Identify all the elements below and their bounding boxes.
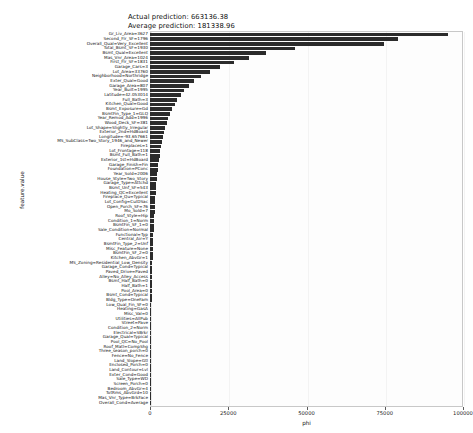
feature-bar [150, 168, 158, 172]
feature-bar [150, 149, 160, 153]
x-tick-label: 25000 [220, 410, 237, 416]
feature-bar [150, 317, 151, 321]
feature-bar [150, 322, 151, 326]
feature-bar [150, 200, 155, 204]
feature-bar [150, 65, 220, 69]
feature-bar [150, 359, 151, 363]
feature-bar [150, 33, 448, 37]
feature-bar [150, 266, 152, 270]
feature-bar [150, 177, 157, 181]
feature-bar [150, 93, 181, 97]
feature-bar [150, 112, 170, 116]
prediction-annotations: Actual prediction: 663136.38 Average pre… [128, 13, 235, 30]
feature-bar [150, 196, 155, 200]
feature-bar [150, 172, 157, 176]
average-prediction-text: Average prediction: 181338.96 [128, 22, 235, 31]
feature-bar [150, 387, 151, 391]
feature-label: Overall_Cond=Average [99, 400, 148, 405]
feature-bar [150, 131, 164, 135]
feature-bar [150, 396, 151, 400]
feature-bar [150, 214, 154, 218]
feature-bar [150, 163, 158, 167]
feature-bar [150, 233, 153, 237]
feature-bar [150, 312, 151, 316]
feature-bar [150, 382, 151, 386]
feature-bar [150, 126, 165, 130]
feature-bar [150, 103, 175, 107]
feature-bar [150, 140, 162, 144]
x-tick-label: 0 [148, 410, 151, 416]
feature-bar [150, 350, 151, 354]
feature-bar [150, 247, 153, 251]
feature-bar [150, 47, 295, 51]
feature-bar [150, 205, 155, 209]
feature-bar [150, 154, 160, 158]
feature-bar [150, 256, 153, 260]
feature-bar [150, 79, 194, 83]
feature-bar [150, 56, 249, 60]
feature-bar [150, 224, 154, 228]
feature-bar [150, 298, 152, 302]
feature-bar [150, 303, 151, 307]
feature-bar [150, 51, 266, 55]
x-tick-label: 75000 [376, 410, 393, 416]
feature-bar [150, 42, 384, 46]
feature-bar [150, 182, 156, 186]
feature-bar [150, 340, 151, 344]
y-axis-label: feature.value [19, 171, 25, 208]
feature-bar [150, 280, 152, 284]
feature-bar [150, 70, 210, 74]
feature-bar [150, 121, 167, 125]
feature-bar [150, 392, 151, 396]
feature-bar [150, 401, 151, 405]
feature-bar [150, 210, 155, 214]
actual-prediction-text: Actual prediction: 663136.38 [128, 13, 235, 22]
feature-bar [150, 354, 151, 358]
feature-bar [150, 336, 151, 340]
feature-bar [150, 191, 156, 195]
x-axis-label: phi [150, 420, 463, 426]
feature-bar [150, 284, 152, 288]
feature-bar [150, 98, 177, 102]
feature-bar [150, 186, 156, 190]
feature-bar [150, 135, 163, 139]
feature-bar [150, 242, 153, 246]
feature-bar [150, 331, 151, 335]
feature-bar [150, 261, 152, 265]
feature-bar [150, 368, 151, 372]
feature-bar [150, 275, 152, 279]
feature-bar [150, 378, 151, 382]
feature-bar [150, 117, 168, 121]
feature-bar [150, 61, 234, 65]
feature-bar [150, 326, 151, 330]
feature-bar [150, 158, 159, 162]
bar-row: Overall_Cond=Average [0, 401, 473, 406]
feature-bar [150, 364, 151, 368]
feature-bar [150, 345, 151, 349]
feature-bar [150, 145, 161, 149]
feature-bar [150, 289, 152, 293]
shap-breakdown-chart: Actual prediction: 663136.38 Average pre… [0, 0, 473, 433]
feature-bar [150, 270, 152, 274]
bar-rows: Gr_Liv_Area=3627Second_Flr_SF=1796Overal… [0, 31, 473, 407]
feature-bar [150, 252, 153, 256]
feature-bar [150, 89, 184, 93]
feature-bar [150, 294, 152, 298]
x-tick-label: 50000 [298, 410, 315, 416]
x-tick-label: 100000 [453, 410, 473, 416]
feature-bar [150, 107, 172, 111]
feature-bar [150, 373, 151, 377]
feature-bar [150, 75, 201, 79]
feature-bar [150, 238, 153, 242]
feature-bar [150, 84, 189, 88]
feature-bar [150, 228, 154, 232]
feature-bar [150, 308, 151, 312]
feature-bar [150, 219, 154, 223]
feature-bar [150, 37, 398, 41]
